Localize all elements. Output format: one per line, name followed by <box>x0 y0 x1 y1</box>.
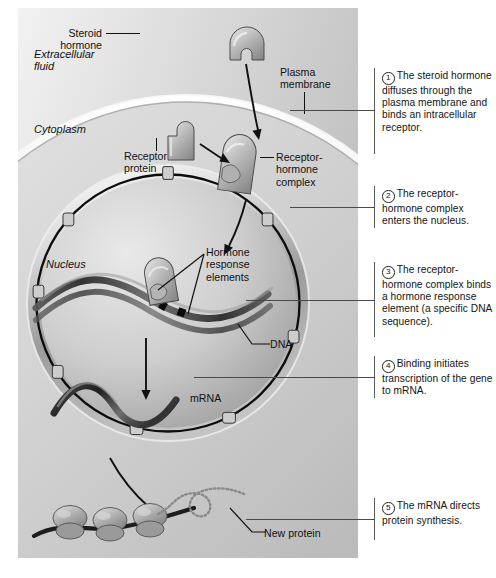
leader-steroid-hormone <box>106 33 140 34</box>
leader-new-protein <box>224 504 268 536</box>
leader-receptor-protein <box>156 138 157 151</box>
leader-step-1 <box>290 110 375 111</box>
label-cytoplasm: Cytoplasm <box>34 123 86 135</box>
annotation-step-2: 2The receptor-hormone complex enters the… <box>382 188 494 227</box>
label-extracellular-fluid: Extracellular fluid <box>34 48 95 73</box>
step-number-3: 3 <box>382 266 395 279</box>
leader-dna <box>236 320 272 348</box>
annotation-step-3: 3The receptor-hormone complex binds a ho… <box>382 264 494 328</box>
leader-step-2 <box>290 207 375 208</box>
label-receptor-protein: Receptor protein <box>124 150 186 175</box>
label-plasma-membrane: Plasma membrane <box>280 66 354 91</box>
leader-step-3 <box>246 300 375 301</box>
step-number-5: 5 <box>382 502 395 515</box>
label-nucleus: Nucleus <box>46 258 86 270</box>
ribosome <box>133 504 167 538</box>
step-text-3: The receptor-hormone complex binds a hor… <box>382 264 492 327</box>
annotation-step-4: 4Binding initiates transcription of the … <box>382 358 494 397</box>
step-text-5: The mRNA directs protein synthesis. <box>382 500 480 526</box>
nuclear-pore <box>52 365 63 378</box>
step-number-2: 2 <box>382 190 395 203</box>
nuclear-pore <box>63 213 74 226</box>
leaders-hormone-response-elements <box>136 248 212 322</box>
annotation-step-5: 5The mRNA directs protein synthesis. <box>382 500 494 527</box>
ribosome <box>93 508 127 542</box>
step-number-1: 1 <box>382 72 395 85</box>
nuclear-pore <box>262 213 273 226</box>
label-receptor-hormone-complex: Receptor- hormone complex <box>276 151 350 188</box>
nuclear-pore <box>223 412 236 423</box>
ribosome-group <box>53 504 167 542</box>
tickbar-step-1 <box>374 68 375 154</box>
step-text-1: The steroid hormone diffuses through the… <box>382 70 492 133</box>
label-steroid-hormone: Steroid hormone <box>44 27 102 52</box>
label-mrna: mRNA <box>190 392 221 404</box>
cell-illustration-panel: Extracellular fluid Cytoplasm Nucleus St… <box>18 8 358 558</box>
leader-receptor-hormone-complex <box>260 157 274 158</box>
ribosome <box>53 506 87 540</box>
label-new-protein: New protein <box>264 527 321 539</box>
label-dna: DNA <box>270 338 292 350</box>
step-number-4: 4 <box>382 360 395 373</box>
leader-step-5 <box>246 519 375 520</box>
step-text-4: Binding initiates transcription of the g… <box>382 358 493 396</box>
figure-root: Extracellular fluid Cytoplasm Nucleus St… <box>0 0 496 578</box>
nuclear-pore <box>33 285 44 298</box>
leader-step-4 <box>194 377 375 378</box>
label-hormone-response-elements: Hormone response elements <box>206 246 278 283</box>
step-text-2: The receptor-hormone complex enters the … <box>382 188 469 226</box>
annotation-step-1: 1The steroid hormone diffuses through th… <box>382 70 494 134</box>
